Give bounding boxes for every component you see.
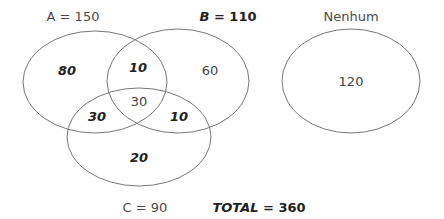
- region-b-and-c: 10: [170, 109, 188, 124]
- region-only-c: 20: [130, 150, 148, 165]
- set-b-label: B = 110: [199, 9, 256, 24]
- region-a-b-c: 30: [131, 94, 148, 109]
- region-only-b: 60: [202, 63, 219, 78]
- total-word: TOTAL: [212, 200, 258, 215]
- set-b-letter: B: [199, 9, 209, 24]
- venn-diagram: [0, 0, 444, 219]
- set-a-label: A = 150: [47, 9, 100, 24]
- region-only-a: 80: [58, 63, 76, 78]
- region-a-and-c: 30: [88, 109, 106, 124]
- region-a-and-b: 10: [129, 60, 147, 75]
- region-none: 120: [339, 74, 364, 89]
- total-value: = 360: [259, 200, 306, 215]
- set-c-label: C = 90: [123, 200, 168, 215]
- set-b-value: = 110: [209, 9, 256, 24]
- none-label: Nenhum: [323, 9, 378, 24]
- total-label: TOTAL = 360: [212, 200, 305, 215]
